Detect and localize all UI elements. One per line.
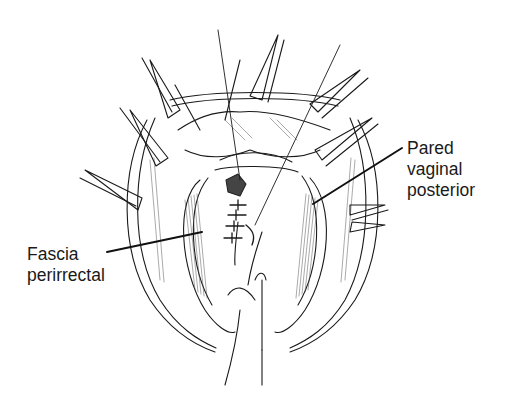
surgical-illustration — [0, 0, 505, 408]
dark-tissue-patch — [226, 174, 246, 196]
label-left-line-2: perirrectal — [27, 265, 105, 286]
label-fascia-perirrectal: Fascia perirrectal — [27, 244, 105, 286]
leader-lines — [107, 148, 402, 252]
label-right-line-3: posterior — [407, 180, 475, 201]
perineal-body — [225, 222, 266, 385]
retractor-hooks — [80, 35, 388, 232]
outer-tissue-outline — [127, 93, 378, 353]
suture-stitches — [224, 200, 254, 245]
label-right-line-2: vaginal — [407, 159, 475, 180]
label-left-line-1: Fascia — [27, 244, 105, 265]
label-right-line-1: Pared — [407, 138, 475, 159]
label-pared-vaginal-posterior: Pared vaginal posterior — [407, 138, 475, 201]
leader-left — [107, 232, 202, 252]
